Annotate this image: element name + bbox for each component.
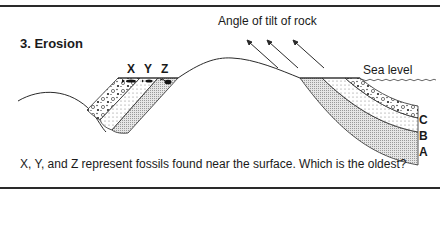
right-strata [300,78,418,165]
sea-level-line [360,79,436,81]
tilt-arrows-icon [247,40,324,68]
question-text: X, Y, and Z represent fossils found near… [20,157,406,171]
hill-line [178,58,300,78]
bottom-rule [0,187,440,189]
